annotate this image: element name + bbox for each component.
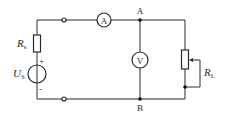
ammeter: A <box>97 13 111 27</box>
node-b <box>138 97 142 101</box>
voltage-source: + - US <box>13 56 46 94</box>
rs-label: Rs <box>16 37 27 51</box>
terminal-bottom <box>62 97 66 101</box>
plus-sign: + <box>39 56 44 66</box>
rheostat-body <box>182 50 189 69</box>
us-label: US <box>13 67 25 81</box>
wiper-arrow-icon <box>189 58 193 62</box>
node-wiper <box>183 85 187 89</box>
rl-label: RL <box>203 66 215 80</box>
wires <box>37 20 200 99</box>
source-resistor: Rs <box>16 35 41 52</box>
node-b-label: B <box>137 103 143 113</box>
node-a-label: A <box>137 6 144 16</box>
minus-sign: - <box>39 84 42 94</box>
circuit-diagram: Rs + - US A A V B RL <box>0 0 226 117</box>
load-rheostat: RL <box>182 50 216 89</box>
resistor-rs-body <box>34 35 41 52</box>
terminal-top <box>62 18 66 22</box>
ammeter-label: A <box>101 16 108 26</box>
voltmeter: V <box>132 52 148 68</box>
wire-left-top <box>37 20 62 35</box>
node-a <box>138 18 142 22</box>
voltmeter-label: V <box>137 56 144 66</box>
